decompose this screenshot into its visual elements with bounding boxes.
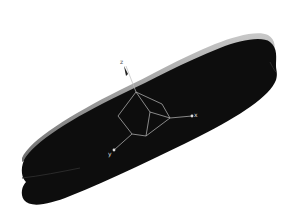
x-axis-endpoint-icon [191, 115, 194, 118]
y-axis-endpoint-icon [113, 149, 116, 152]
axis-label-x: x [194, 111, 198, 118]
disc-body [22, 33, 277, 204]
axis-label-z: z [120, 58, 123, 65]
model-render: z x y [0, 0, 298, 224]
3d-viewport[interactable]: z x y [0, 0, 298, 224]
axis-label-y: y [108, 150, 112, 158]
z-arrow-icon [124, 66, 128, 76]
